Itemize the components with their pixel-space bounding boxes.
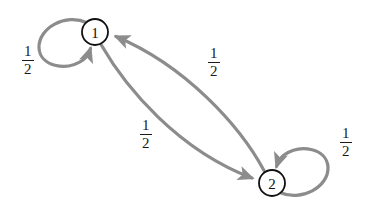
edge-1-to-2-probability-label: 1 2 [140,118,152,151]
state-diagram-canvas: 1 2 1 2 1 2 1 2 1 2 [0,0,369,209]
edge-2-to-1-path [116,37,264,171]
edge-1-to-2-numerator: 1 [140,118,152,135]
edge-2-to-1-edge [116,37,264,171]
self-loop-2-probability-label: 1 2 [340,126,352,159]
edge-1-to-2-denominator: 2 [140,135,152,151]
self-loop-2-numerator: 1 [340,126,352,143]
node-2-label: 2 [268,176,276,192]
self-loop-1-numerator: 1 [22,44,34,61]
edge-2-to-1-probability-label: 1 2 [208,46,220,79]
edge-2-to-1-denominator: 2 [208,63,220,79]
self-loop-2-denominator: 2 [340,143,352,159]
self-loop-1-probability-label: 1 2 [22,44,34,77]
edge-1-to-2-edge [101,45,252,179]
node-2[interactable]: 2 [259,170,285,196]
state-diagram-graph: 1 2 [0,0,369,209]
node-1-label: 1 [91,25,99,41]
node-1[interactable]: 1 [82,19,108,45]
edge-2-to-1-numerator: 1 [208,46,220,63]
self-loop-1-denominator: 2 [22,61,34,77]
edge-1-to-2-path [101,45,252,179]
